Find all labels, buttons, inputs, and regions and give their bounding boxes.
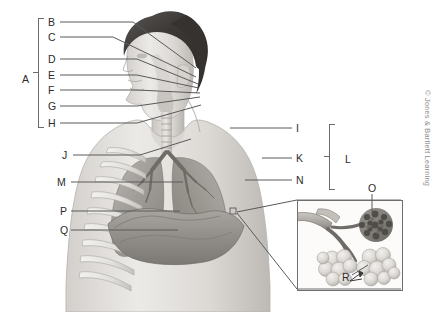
label-n: N bbox=[296, 175, 304, 186]
label-k: K bbox=[296, 153, 303, 164]
diaphragm bbox=[108, 209, 244, 265]
leader-line-d bbox=[137, 59, 198, 84]
label-p: P bbox=[60, 206, 67, 217]
bracket-a bbox=[38, 18, 44, 128]
label-i: I bbox=[296, 123, 299, 134]
leader-line-c bbox=[113, 37, 196, 77]
bracket-l bbox=[329, 124, 335, 190]
bracket-tick-l bbox=[324, 156, 329, 157]
label-d: D bbox=[48, 54, 56, 65]
neck bbox=[152, 86, 200, 138]
label-q: Q bbox=[60, 225, 68, 236]
label-m: M bbox=[57, 177, 66, 188]
rib-cage bbox=[79, 147, 146, 291]
label-e: E bbox=[48, 70, 55, 81]
bracket-label-a: A bbox=[22, 74, 29, 85]
head-profile bbox=[123, 11, 208, 120]
leader-line-e bbox=[137, 75, 199, 88]
leader-line-f bbox=[137, 90, 200, 93]
label-f: F bbox=[48, 85, 55, 96]
lungs bbox=[112, 152, 237, 256]
copyright-notice: © Jones & Bartlett Learning bbox=[423, 90, 432, 186]
label-r: R bbox=[342, 272, 350, 283]
label-j: J bbox=[62, 150, 67, 161]
label-h: H bbox=[48, 118, 56, 129]
label-b: B bbox=[48, 17, 55, 28]
leader-line-h bbox=[137, 105, 201, 123]
label-c: C bbox=[48, 32, 56, 43]
capillary-network bbox=[359, 208, 393, 242]
alveoli-detail-illustration bbox=[298, 201, 402, 290]
alveoli-detail-inset bbox=[297, 200, 403, 291]
torso-silhouette bbox=[66, 120, 270, 312]
figure-canvas: BCDEFGHJMPQIKNOR AL © Jones & Bartlett L… bbox=[0, 0, 433, 312]
bracket-label-l: L bbox=[345, 154, 351, 165]
leader-line-b bbox=[133, 22, 196, 68]
bracket-tick-a bbox=[33, 72, 38, 73]
label-g: G bbox=[48, 101, 56, 112]
airway bbox=[150, 54, 173, 154]
leader-line-g bbox=[137, 97, 200, 106]
leader-line-j bbox=[140, 139, 191, 155]
label-o: O bbox=[368, 183, 376, 194]
